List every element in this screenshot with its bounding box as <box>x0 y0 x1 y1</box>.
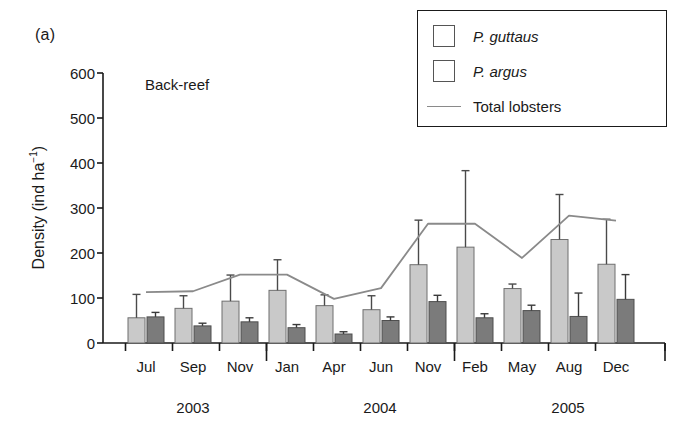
bar-p-guttaus <box>269 290 286 343</box>
bar-p-argus <box>429 302 446 343</box>
bar-p-argus <box>382 321 399 344</box>
bar-p-argus <box>288 328 305 343</box>
bar-p-guttaus <box>504 289 521 343</box>
bar-p-guttaus <box>175 308 192 343</box>
legend-item-total-lobsters: Total lobsters <box>433 93 561 119</box>
line-total-lobsters <box>146 216 616 299</box>
bar-p-argus <box>241 322 258 343</box>
legend-item-p-guttaus: P. guttaus <box>433 23 539 49</box>
bar-p-guttaus <box>316 306 333 343</box>
legend-label: P. guttaus <box>473 28 539 45</box>
bar-p-argus <box>476 318 493 343</box>
legend-label: P. argus <box>473 63 527 80</box>
legend: P. guttaus P. argus Total lobsters <box>417 10 667 127</box>
figure-panel-a: (a) Back-reef Density (ind ha−1) 600 500… <box>0 0 678 442</box>
bar-p-guttaus <box>598 264 615 343</box>
bar-p-argus <box>570 316 587 343</box>
dark-square-swatch <box>433 60 455 82</box>
bar-p-argus <box>617 299 634 343</box>
bar-p-guttaus <box>363 310 380 343</box>
bar-p-guttaus <box>128 318 145 343</box>
legend-item-p-argus: P. argus <box>433 58 527 84</box>
bar-p-guttaus <box>457 247 474 343</box>
line-swatch <box>427 106 461 107</box>
light-square-swatch <box>433 25 455 47</box>
bar-p-argus <box>523 311 540 343</box>
bar-p-guttaus <box>551 240 568 344</box>
bar-p-argus <box>194 326 211 343</box>
bar-p-guttaus <box>410 265 427 343</box>
bar-p-argus <box>147 317 164 343</box>
bar-p-guttaus <box>222 301 239 343</box>
legend-label: Total lobsters <box>473 98 561 115</box>
bar-p-argus <box>335 334 352 343</box>
